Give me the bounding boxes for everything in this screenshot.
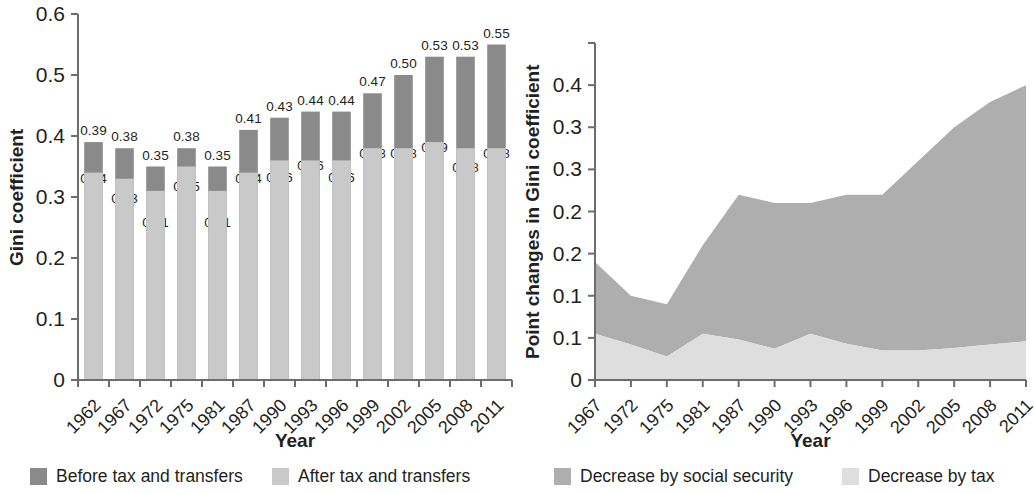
legend-row: Before tax and transfers After tax and t… — [0, 458, 1034, 494]
bar-chart-canvas — [0, 0, 520, 460]
legend-item-after-tax: After tax and transfers — [272, 466, 470, 487]
legend-item-before-tax: Before tax and transfers — [30, 466, 243, 487]
legend-swatch-icon — [554, 468, 571, 485]
legend-swatch-icon — [842, 468, 859, 485]
legend-item-label: Before tax and transfers — [56, 466, 243, 487]
legend-item-tax: Decrease by tax — [842, 466, 994, 487]
legend-item-label: Decrease by social security — [580, 466, 793, 487]
bar-chart-panel: Gini coefficient Year 00.10.20.30.40.50.… — [0, 0, 520, 460]
area-chart-panel: Point changes in Gini coefficient Year 0… — [520, 0, 1034, 460]
legend-item-social-security: Decrease by social security — [554, 466, 793, 487]
area-chart-canvas — [520, 0, 1034, 460]
figure-root: Gini coefficient Year 00.10.20.30.40.50.… — [0, 0, 1034, 494]
legend-item-label: Decrease by tax — [868, 466, 994, 487]
legend-swatch-icon — [272, 468, 289, 485]
legend-item-label: After tax and transfers — [298, 466, 470, 487]
legend-swatch-icon — [30, 468, 47, 485]
